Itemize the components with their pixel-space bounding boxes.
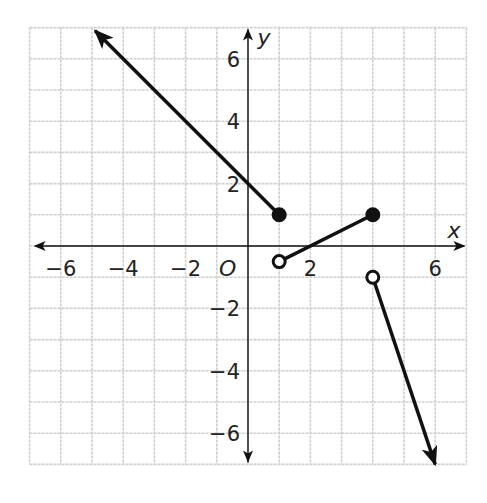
y-tick-label: 4 [227,110,240,134]
piecewise-function-graph: −6−4−226642−2−4−6Oxy [0,0,487,503]
x-tick-label: −6 [45,257,76,281]
x-tick-label: −2 [170,257,201,281]
x-tick-label: 2 [304,257,317,281]
y-tick-label: −6 [209,422,240,446]
y-axis-label: y [256,25,271,50]
origin-label: O [219,256,236,281]
closed-endpoint [365,207,380,222]
x-axis-label: x [446,218,461,243]
x-tick-label: 6 [429,257,442,281]
y-tick-label: −2 [209,297,240,321]
open-endpoint [273,256,285,268]
y-tick-label: −4 [209,360,240,384]
x-tick-label: −4 [108,257,139,281]
piece-2-segment [279,215,373,262]
y-tick-label: 6 [227,48,240,72]
y-tick-label: 2 [227,173,240,197]
closed-endpoint [272,207,287,222]
open-endpoint [367,271,379,283]
